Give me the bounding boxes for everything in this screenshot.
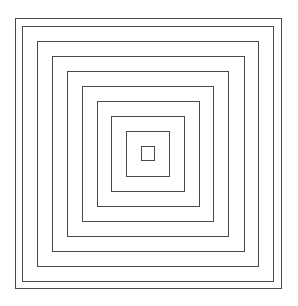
concentric-squares-diagram: [0, 0, 298, 306]
square-10: [141, 146, 155, 161]
